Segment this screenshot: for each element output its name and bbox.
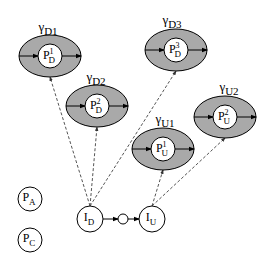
node-id: ID xyxy=(77,206,103,232)
node-iu: IU xyxy=(139,206,165,232)
gamma-label: γD2 xyxy=(85,69,105,87)
edge-id-to-d2 xyxy=(90,127,97,206)
region-d1: P1DγD1 xyxy=(19,19,81,77)
junction-node xyxy=(118,214,128,224)
region-u2: P2UγU2 xyxy=(194,79,256,138)
gamma-label: γD3 xyxy=(161,12,182,30)
node-pa: PA xyxy=(18,187,42,211)
region-u1: P1UγU1 xyxy=(132,111,194,170)
gamma-label: γU1 xyxy=(154,111,174,129)
nodes-layer: PAPCIDIU xyxy=(18,187,165,252)
gamma-label: γU2 xyxy=(218,79,238,97)
region-d3: P3DγD3 xyxy=(145,12,207,71)
diagram: P1DγD1P2DγD2P3DγD3P1UγU1P2UγU2 PAPCIDIU xyxy=(0,0,266,267)
region-d2: P2DγD2 xyxy=(66,69,128,127)
node-pc: PC xyxy=(18,228,42,252)
gamma-label: γD1 xyxy=(37,19,57,37)
